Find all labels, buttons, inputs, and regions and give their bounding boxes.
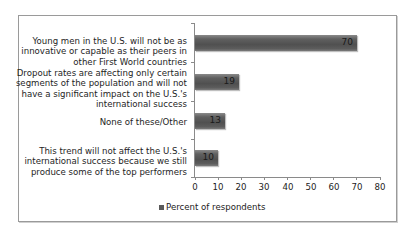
- category-label-line: have a significant impact on the U.S.'s: [16, 89, 187, 99]
- x-tick-label: 60: [324, 182, 344, 192]
- x-tick-label: 0: [185, 182, 205, 192]
- x-tick-label: 70: [347, 182, 367, 192]
- category-label-line: innovative or capable as their peers in: [21, 46, 187, 56]
- x-tick-label: 20: [231, 182, 251, 192]
- x-tick-label: 40: [278, 182, 298, 192]
- legend-label: Percent of respondents: [166, 202, 265, 212]
- x-tick-label: 10: [208, 182, 228, 192]
- category-label-2: Dropout rates are affecting only certain…: [16, 68, 187, 110]
- bar-none-other: 13: [195, 113, 225, 129]
- x-tick-label: 50: [301, 182, 321, 192]
- y-tick: [191, 101, 195, 102]
- bar-value-label: 10: [203, 152, 214, 162]
- legend: Percent of respondents: [159, 202, 265, 212]
- x-tick: [218, 177, 219, 180]
- category-label-line: segments of the population and will not: [16, 78, 187, 88]
- category-label-line: This trend will not affect the U.S.'s: [24, 146, 187, 156]
- category-label-line: None of these/Other: [100, 117, 187, 127]
- bar-value-label: 13: [210, 115, 221, 125]
- y-tick: [191, 62, 195, 63]
- category-label-line: international success: [16, 99, 187, 109]
- x-tick: [380, 177, 381, 180]
- x-tick: [195, 177, 196, 180]
- category-label-line: produce some of the top performers: [24, 167, 187, 177]
- x-tick: [241, 177, 242, 180]
- category-label-line: international success because we still: [24, 156, 187, 166]
- legend-swatch-icon: [159, 205, 164, 210]
- category-label-line: Young men in the U.S. will not be as: [21, 36, 187, 46]
- bar-value-label: 19: [224, 76, 235, 86]
- category-label-line: Dropout rates are affecting only certain: [16, 68, 187, 78]
- y-tick: [191, 139, 195, 140]
- bar-value-label: 70: [342, 37, 353, 47]
- category-label-line: other First World countries: [21, 57, 187, 67]
- bar-dropout-segments: 19: [195, 74, 239, 90]
- bar-no-effect-top-performers: 10: [195, 150, 218, 166]
- category-label-4: This trend will not affect the U.S.'s in…: [24, 146, 187, 177]
- x-tick-label: 30: [254, 182, 274, 192]
- x-tick-label: 80: [370, 182, 390, 192]
- category-label-3: None of these/Other: [100, 117, 187, 127]
- x-tick: [333, 177, 334, 180]
- x-tick: [287, 177, 288, 180]
- category-label-1: Young men in the U.S. will not be as inn…: [21, 36, 187, 67]
- x-tick: [264, 177, 265, 180]
- bar-innovative-capable: 70: [195, 35, 357, 51]
- x-tick: [310, 177, 311, 180]
- x-tick: [356, 177, 357, 180]
- y-tick: [191, 23, 195, 24]
